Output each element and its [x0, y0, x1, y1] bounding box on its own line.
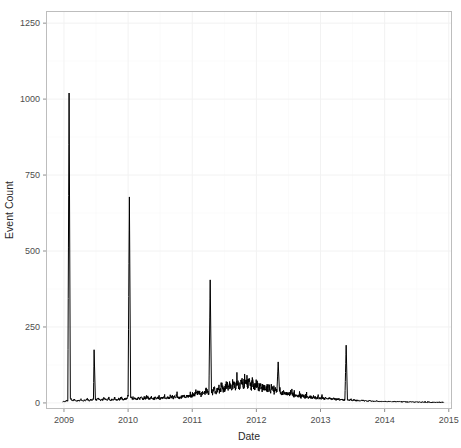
y-tick-label: 0	[35, 398, 40, 408]
x-tick-label: 2015	[439, 415, 459, 425]
x-tick-label: 2014	[375, 415, 395, 425]
y-axis-title: Event Count	[3, 181, 15, 239]
y-tick-label: 750	[25, 170, 40, 180]
y-tick-label: 250	[25, 322, 40, 332]
y-tick-label: 1000	[20, 94, 40, 104]
x-tick-label: 2012	[246, 415, 266, 425]
y-tick-label: 1250	[20, 18, 40, 28]
x-tick-label: 2009	[54, 415, 74, 425]
chart-container: 025050075010001250 200920102011201220132…	[0, 0, 461, 448]
y-tick-label: 500	[25, 246, 40, 256]
x-axis-title: Date	[238, 430, 260, 442]
x-tick-label: 2011	[183, 415, 202, 425]
x-tick-label: 2013	[310, 415, 330, 425]
plot-panel-background	[46, 11, 452, 409]
event-count-line-chart: 025050075010001250 200920102011201220132…	[0, 0, 461, 448]
x-tick-label: 2010	[118, 415, 138, 425]
